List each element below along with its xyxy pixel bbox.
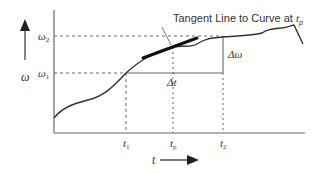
- omega-curve: [54, 25, 303, 118]
- omega-1-label: ω1: [38, 67, 50, 81]
- t-1-label: t1: [123, 137, 130, 151]
- up-arrow-icon: [20, 19, 30, 31]
- tangent-annotation: Tangent Line to Curve at tp: [173, 12, 303, 27]
- omega-2-label: ω2: [38, 30, 50, 44]
- delta-t-label: Δt: [166, 76, 177, 88]
- x-axis-label: t: [152, 153, 156, 167]
- delta-omega-label: Δω: [227, 48, 242, 60]
- t-2-label: t2: [220, 137, 227, 151]
- right-arrow-icon: [187, 155, 199, 165]
- tangent-line: [143, 38, 197, 58]
- t-p-label: tp: [170, 137, 177, 151]
- angular-velocity-diagram: Tangent Line to Curve at tp ω2 ω1 ω t1 t…: [0, 0, 324, 173]
- y-axis-label: ω: [21, 70, 29, 84]
